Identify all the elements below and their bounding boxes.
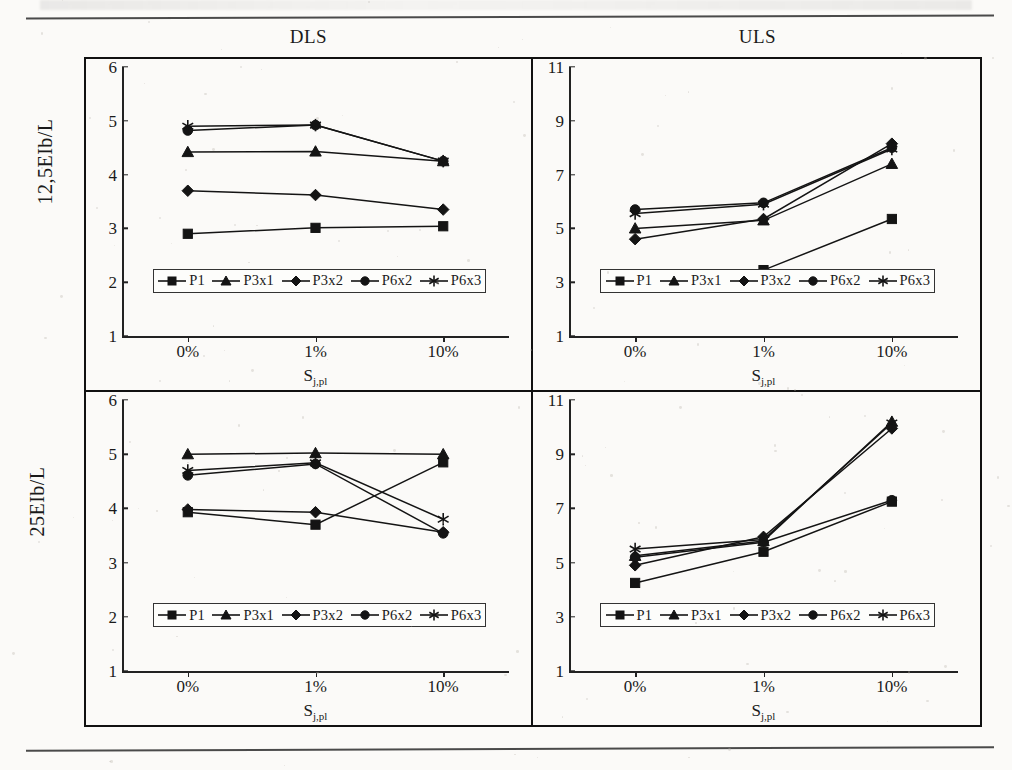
- square-legend-icon: [605, 608, 635, 622]
- data-point-p1: [887, 214, 896, 223]
- data-point-p6x3: [438, 513, 449, 525]
- legend-item-p3x2: P3x2: [281, 272, 344, 289]
- scan-speck: [73, 517, 74, 518]
- legend-label: P1: [637, 607, 653, 624]
- legend-label: P6x3: [900, 272, 931, 289]
- scan-speck: [786, 711, 789, 714]
- scan-speck: [112, 520, 113, 521]
- column-headers: DLS ULS: [84, 26, 982, 56]
- circle-marker: [809, 277, 817, 285]
- plot-area: 13579110%1%10%Sj,plP1P3x1P3x2P6x2P6x3: [533, 392, 980, 725]
- legend-label: P6x2: [830, 607, 861, 624]
- scan-speck: [537, 757, 538, 758]
- scan-speck: [518, 406, 520, 408]
- scan-speck: [887, 721, 888, 722]
- chart-panel-bottom-left: 1234560%1%10%Sj,plP1P3x1P3x2P6x2P6x3: [86, 392, 533, 725]
- scan-speck: [733, 607, 736, 610]
- page-top-smudge: [40, 0, 972, 10]
- legend-label: P6x3: [900, 607, 931, 624]
- scan-speck: [89, 117, 91, 119]
- legend-label: P6x2: [382, 607, 413, 624]
- legend-label: P3x2: [313, 607, 344, 624]
- scan-speck: [185, 169, 187, 171]
- legend-item-p3x1: P3x1: [659, 607, 722, 624]
- circle-legend-icon: [350, 274, 380, 288]
- scan-speck: [522, 39, 523, 40]
- series-layer: [533, 392, 980, 725]
- circle-marker: [809, 611, 817, 619]
- series-layer: [533, 59, 980, 390]
- scan-speck: [514, 754, 515, 755]
- page-rule-bottom: [26, 746, 994, 752]
- data-point-p1: [631, 578, 640, 587]
- diamond-marker: [291, 610, 301, 620]
- asterisk-legend-icon: [868, 274, 898, 288]
- data-point-p1: [439, 222, 448, 231]
- square-marker: [168, 611, 176, 619]
- square-marker: [616, 277, 624, 285]
- square-legend-icon: [157, 274, 187, 288]
- scan-speck: [697, 343, 699, 345]
- diamond-marker: [739, 610, 749, 620]
- scan-speck: [60, 295, 63, 298]
- scan-speck: [286, 597, 287, 598]
- scan-speck: [203, 355, 205, 357]
- scan-speck: [992, 57, 994, 59]
- legend-item-p3x1: P3x1: [659, 272, 722, 289]
- data-point-p3x2: [182, 185, 194, 197]
- data-point-p6x2: [438, 529, 448, 539]
- chart-panel-bottom-right: 13579110%1%10%Sj,plP1P3x1P3x2P6x2P6x3: [533, 392, 980, 725]
- scan-speck: [695, 622, 697, 624]
- square-marker: [168, 277, 176, 285]
- legend-label: P3x1: [691, 272, 722, 289]
- scan-speck: [284, 765, 285, 766]
- scan-speck: [110, 760, 113, 763]
- chart-panel-top-left: 1234560%1%10%Sj,plP1P3x1P3x2P6x2P6x3: [86, 59, 533, 392]
- square-legend-icon: [605, 274, 635, 288]
- circle-legend-icon: [798, 274, 828, 288]
- diamond-marker: [739, 276, 749, 286]
- scan-speck: [582, 455, 583, 456]
- scan-speck: [41, 167, 43, 169]
- scan-speck: [990, 545, 992, 547]
- legend-item-p6x2: P6x2: [350, 272, 413, 289]
- scan-speck: [889, 251, 891, 253]
- data-point-p3x2: [310, 506, 322, 517]
- row-label-text: 12,5EIb/L: [34, 118, 57, 204]
- scan-speck: [204, 93, 206, 95]
- scan-speck: [516, 650, 519, 653]
- scan-speck: [1007, 505, 1010, 508]
- legend-item-p3x1: P3x1: [211, 607, 274, 624]
- data-point-p3x2: [437, 204, 449, 216]
- scan-speck: [316, 672, 319, 675]
- scan-speck: [758, 382, 761, 385]
- legend-label: P3x2: [761, 272, 792, 289]
- data-point-p1: [183, 229, 192, 238]
- triangle-legend-icon: [211, 274, 241, 288]
- scan-speck: [942, 430, 945, 433]
- square-marker: [616, 611, 624, 619]
- legend-item-p6x2: P6x2: [350, 607, 413, 624]
- legend-label: P3x1: [243, 607, 274, 624]
- scan-speck: [12, 652, 15, 655]
- legend-label: P1: [637, 272, 653, 289]
- scan-speck: [794, 389, 796, 391]
- legend-label: P3x2: [761, 607, 792, 624]
- scan-speck: [834, 580, 836, 582]
- diamond-legend-icon: [281, 274, 311, 288]
- scan-speck: [114, 245, 115, 246]
- scan-speck: [586, 698, 588, 700]
- data-point-p1: [311, 520, 320, 529]
- triangle-legend-icon: [659, 608, 689, 622]
- scan-speck: [442, 521, 444, 523]
- scan-speck: [523, 134, 526, 137]
- legend-label: P6x3: [451, 607, 482, 624]
- circle-legend-icon: [350, 608, 380, 622]
- scan-speck: [138, 508, 139, 509]
- legend-item-p6x3: P6x3: [868, 607, 931, 624]
- chart-legend: P1P3x1P3x2P6x2P6x3: [600, 603, 935, 627]
- data-point-p6x2: [887, 495, 897, 505]
- column-header-uls: ULS: [533, 26, 982, 56]
- scan-speck: [997, 476, 1000, 479]
- scan-speck: [278, 470, 280, 472]
